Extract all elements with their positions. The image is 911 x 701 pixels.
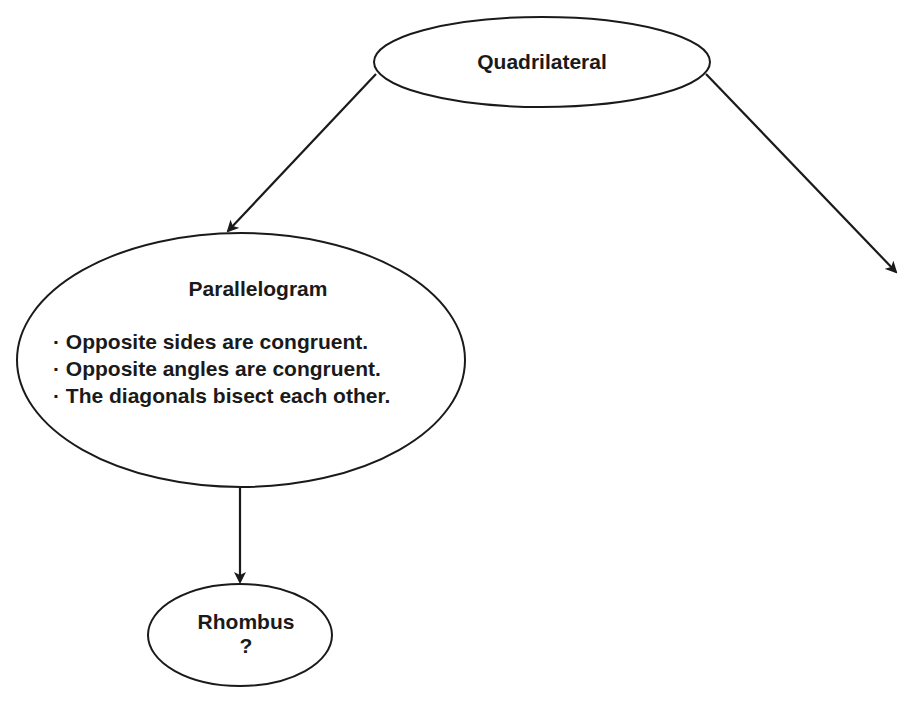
node-rhombus-unknown-property: ? [240, 634, 253, 657]
edge-quadrilateral-to-parallelogram [228, 74, 376, 231]
node-quadrilateral-title: Quadrilateral [477, 50, 607, 73]
node-parallelogram: Parallelogram · Opposite sides are congr… [17, 233, 465, 487]
node-rhombus: Rhombus ? [148, 584, 332, 686]
diagram-canvas: Quadrilateral Parallelogram · Opposite s… [0, 0, 911, 701]
node-quadrilateral: Quadrilateral [374, 17, 710, 107]
node-parallelogram-title: Parallelogram [189, 277, 328, 300]
node-parallelogram-property: · The diagonals bisect each other. [53, 384, 390, 407]
node-parallelogram-property: · Opposite angles are congruent. [53, 357, 381, 380]
node-rhombus-title: Rhombus [198, 610, 295, 633]
node-parallelogram-property: · Opposite sides are congruent. [53, 330, 368, 353]
edge-quadrilateral-to-offscreen [706, 74, 896, 272]
